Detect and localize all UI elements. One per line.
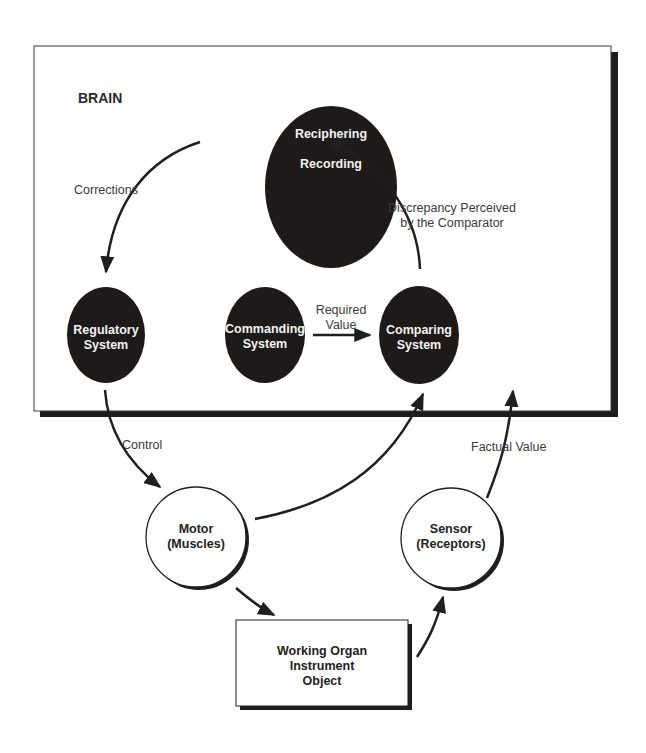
commanding-label-line2: System xyxy=(215,337,315,352)
discrepancy-label-line1: Discrepancy Perceived xyxy=(352,201,552,216)
motor-label-line1: Motor xyxy=(146,522,246,537)
commanding-label-line1: Commanding xyxy=(215,322,315,337)
required-value-label-line2: Value xyxy=(311,318,371,333)
regulatory-label-line2: System xyxy=(56,338,156,353)
working-label-line2: Instrument xyxy=(236,659,408,674)
comparing-label-line1: Comparing xyxy=(369,323,469,338)
recording-label-line1: Reciphering xyxy=(271,127,391,142)
working-label-line3: Object xyxy=(236,674,408,689)
regulatory-label-line1: Regulatory xyxy=(56,323,156,338)
recording-label-line2: Recording xyxy=(271,157,391,172)
comparing-label-line2: System xyxy=(369,338,469,353)
motor-to-working-arrow xyxy=(236,588,274,615)
discrepancy-label-line2: by the Comparator xyxy=(352,216,552,231)
diagram-canvas xyxy=(0,0,646,753)
working-to-sensor-arrow xyxy=(417,597,443,657)
brain-label: BRAIN xyxy=(78,90,122,106)
motor-label-line2: (Muscles) xyxy=(146,537,246,552)
sensor-label-line1: Sensor xyxy=(401,522,501,537)
factual-value-label: Factual Value xyxy=(471,440,547,455)
required-value-label-line1: Required xyxy=(311,303,371,318)
corrections-label: Corrections xyxy=(74,183,138,198)
control-label: Control xyxy=(122,438,162,453)
working-label-line1: Working Organ xyxy=(236,644,408,659)
sensor-label-line2: (Receptors) xyxy=(401,537,501,552)
